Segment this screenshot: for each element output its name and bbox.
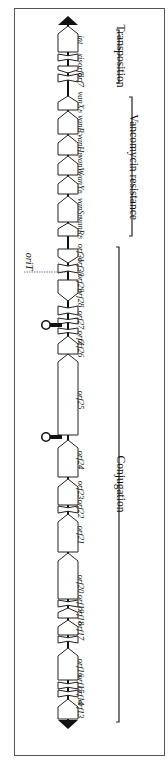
gene-label: orf28 [76, 289, 86, 308]
gene-orf20 [58, 553, 78, 599]
region-label: Conjugation [114, 456, 127, 513]
gene-label: orf7 [76, 73, 86, 88]
gene-label: orf17 [76, 622, 86, 641]
stem-loop-stem [50, 323, 62, 327]
oriT-label: oriT [24, 253, 35, 272]
gene-label: orf13 [76, 700, 86, 718]
gene-label: orf23 [76, 481, 86, 499]
gene-label: orf21 [76, 526, 86, 544]
stem-loop-icon [42, 321, 50, 329]
gene-label: orf24 [76, 451, 86, 470]
figure-frame [15, 9, 165, 756]
gene-orf25 [58, 354, 78, 435]
genetic-map-svg: intxisorf8orf7vanXBvanBvanHBvanWvanYBvan… [0, 0, 168, 776]
gene-label: int [76, 36, 86, 46]
genetic-map-figure: intxisorf8orf7vanXBvanBvanHBvanWvanYBvan… [0, 0, 168, 776]
genes-layer [58, 26, 78, 719]
stem-loop-stem [50, 435, 62, 439]
gene-label: orf22 [76, 500, 86, 519]
gene-label: xis [76, 52, 86, 63]
gene-label: vanB [76, 115, 86, 132]
gene-label: orf20 [76, 575, 86, 594]
gene-orf21 [58, 514, 78, 552]
gene-label: orf26 [76, 339, 86, 358]
region-label: Vancomycin resistance [127, 114, 140, 220]
gene-label: orf25 [76, 391, 86, 409]
gene-orf24 [58, 440, 78, 477]
region-label: Transposition [114, 25, 127, 88]
gene-label: orf27 [76, 311, 86, 330]
stem-loop-icon [42, 433, 50, 441]
